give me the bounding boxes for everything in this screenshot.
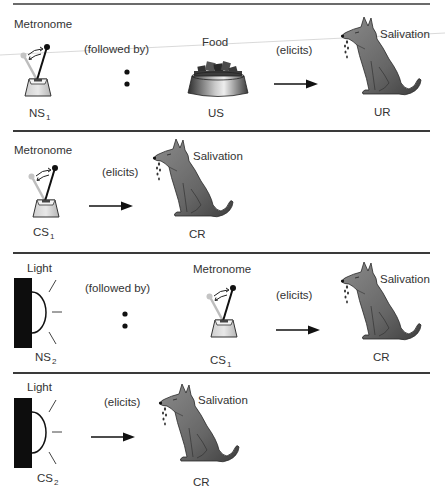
divider-2 <box>13 252 430 254</box>
caption-salivation: Salivation <box>198 395 248 407</box>
arrow-right-icon <box>274 79 320 89</box>
label-cr: CR <box>189 229 206 241</box>
caption-light: Light <box>27 263 52 275</box>
caption-metronome: Metronome <box>14 19 72 31</box>
caption-food: Food <box>202 37 228 49</box>
divider-3 <box>13 372 430 374</box>
connector-elicits: (elicits) <box>102 167 138 179</box>
connector-elicits: (elicits) <box>276 290 312 302</box>
connector-elicits: (elicits) <box>276 45 312 57</box>
divider-1 <box>13 130 430 132</box>
caption-salivation: Salivation <box>380 29 430 41</box>
caption-salivation: Salivation <box>380 274 430 286</box>
light-icon <box>14 278 64 348</box>
label-ns1: NS1 <box>29 108 50 122</box>
arrow-right-icon <box>91 432 137 442</box>
colon-symbol-icon <box>124 69 130 87</box>
metronome-icon <box>15 46 55 98</box>
caption-metronome: Metronome <box>193 264 251 276</box>
label-us: US <box>208 108 224 120</box>
label-cs1: CS1 <box>33 227 54 241</box>
label-cs1: CS1 <box>210 355 231 369</box>
connector-elicits: (elicits) <box>104 397 140 409</box>
caption-light: Light <box>27 382 52 394</box>
caption-metronome: Metronome <box>14 145 72 157</box>
label-ns2: NS2 <box>35 352 56 366</box>
connector-followed-by: (followed by) <box>84 44 149 56</box>
label-cr: CR <box>193 477 210 489</box>
colon-symbol-icon <box>122 311 128 329</box>
label-cs2: CS2 <box>37 473 58 487</box>
metronome-icon <box>23 167 63 219</box>
label-ur: UR <box>374 107 391 119</box>
connector-followed-by: (followed by) <box>85 283 150 295</box>
light-icon <box>14 398 64 468</box>
food-bowl-icon <box>186 60 250 104</box>
arrow-right-icon <box>89 201 135 211</box>
caption-salivation: Salivation <box>193 151 243 163</box>
metronome-icon <box>201 287 241 339</box>
label-cr: CR <box>373 352 390 364</box>
arrow-right-icon <box>276 325 322 335</box>
